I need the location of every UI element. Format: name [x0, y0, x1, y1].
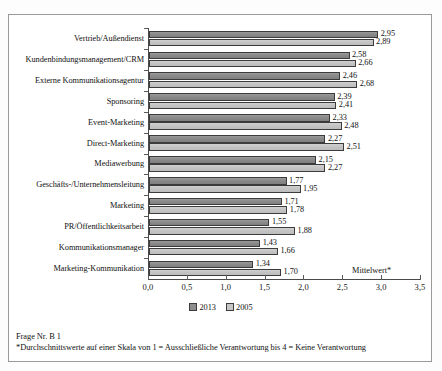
bar-2013	[149, 114, 330, 122]
chart-category-row: Kundenbindungsmanagement/CRM2,582,66	[0, 49, 442, 70]
value-axis-tick-label: 1,5	[245, 282, 285, 292]
bar-value-label: 1,43	[263, 238, 277, 247]
bar-value-label: 2,68	[360, 79, 374, 88]
chart-category-row: Mediawerbung2,152,27	[0, 154, 442, 175]
bar-value-label: 1,77	[289, 176, 303, 185]
bar-2013	[149, 219, 269, 227]
bar-2005	[149, 206, 287, 214]
bar-value-label: 2,89	[376, 37, 390, 46]
value-axis-tick-label: 3,0	[361, 282, 401, 292]
chart-footnotes: Frage Nr. B 1 *Durchschnittswerte auf ei…	[16, 331, 424, 353]
legend-label: 2013	[199, 303, 216, 312]
bar-value-label: 1,95	[303, 184, 317, 193]
category-label: Marketing	[12, 201, 144, 210]
category-label: Direct-Marketing	[12, 139, 144, 148]
value-axis-tick-label: 3,5	[400, 282, 440, 292]
category-label: Kommunikationsmanager	[12, 243, 144, 252]
category-label: Vertrieb/Außendienst	[12, 34, 144, 43]
bar-2013	[149, 240, 260, 248]
bar-2005	[149, 143, 344, 151]
value-axis-tick-label: 2,5	[322, 282, 362, 292]
chart-category-row: PR/Öffentlichkeitsarbeit1,551,88	[0, 216, 442, 237]
bar-2005	[149, 60, 356, 68]
bar-2005	[149, 185, 301, 193]
category-label: Event-Marketing	[12, 118, 144, 127]
chart-category-row: Kommunikationsmanager1,431,66	[0, 237, 442, 258]
category-label: Mediawerbung	[12, 159, 144, 168]
bar-2013	[149, 261, 253, 269]
bar-2013	[149, 93, 335, 101]
value-axis-tick-label: 2,0	[283, 282, 323, 292]
value-axis-tick-label: 0,5	[167, 282, 207, 292]
chart-category-row: Vertrieb/Außendienst2,952,89	[0, 28, 442, 49]
category-label: PR/Öffentlichkeitsarbeit	[12, 222, 144, 231]
category-label: Externe Kommunikationsagentur	[12, 76, 144, 85]
bar-2013	[149, 72, 340, 80]
chart-legend: 20132005	[0, 303, 442, 312]
bar-value-label: 1,78	[290, 205, 304, 214]
value-axis-tick	[187, 275, 188, 280]
category-label: Sponsoring	[12, 97, 144, 106]
bar-2005	[149, 269, 281, 277]
bar-value-label: 1,34	[256, 259, 270, 268]
chart-category-row: Geschäfts-/Unternehmensleitung1,771,95	[0, 174, 442, 195]
bar-2005	[149, 39, 374, 47]
legend-swatch	[189, 303, 197, 311]
bar-value-label: 2,41	[339, 100, 353, 109]
footnote-question: Frage Nr. B 1	[16, 331, 424, 342]
value-axis-line	[148, 279, 421, 280]
bar-value-label: 2,27	[328, 163, 342, 172]
bar-value-label: 1,88	[298, 226, 312, 235]
bar-2005	[149, 122, 342, 130]
chart-category-row: Direct-Marketing2,272,51	[0, 133, 442, 154]
bar-value-label: 1,66	[281, 246, 295, 255]
value-axis-tick	[420, 275, 421, 280]
footnote-scale: *Durchschnittswerte auf einer Skala von …	[16, 342, 424, 353]
bar-2005	[149, 248, 278, 256]
value-axis-tick-label: 1,0	[206, 282, 246, 292]
category-label: Marketing-Kommunikation	[12, 264, 144, 273]
bar-value-label: 2,48	[344, 121, 358, 130]
bar-2013	[149, 52, 350, 60]
chart-category-row: Sponsoring2,392,41	[0, 91, 442, 112]
legend-item-2005: 2005	[226, 303, 253, 312]
value-axis-tick	[303, 275, 304, 280]
axis-caption: Mittelwert*	[352, 266, 391, 275]
bar-value-label: 2,66	[358, 58, 372, 67]
value-axis-tick	[265, 275, 266, 280]
bar-value-label: 1,55	[272, 217, 286, 226]
bar-2013	[149, 198, 282, 206]
chart-category-row: Event-Marketing2,332,48	[0, 112, 442, 133]
bar-value-label: 1,70	[284, 267, 298, 276]
bar-2013	[149, 177, 287, 185]
value-axis-tick-label: 0,0	[128, 282, 168, 292]
chart-figure: Vertrieb/Außendienst2,952,89Kundenbindun…	[0, 0, 442, 371]
bar-2005	[149, 164, 325, 172]
bar-2013	[149, 135, 325, 143]
legend-label: 2005	[236, 303, 253, 312]
value-axis-tick	[148, 275, 149, 280]
bar-2005	[149, 102, 336, 110]
category-label: Geschäfts-/Unternehmensleitung	[12, 180, 144, 189]
bar-2005	[149, 227, 295, 235]
chart-category-row: Externe Kommunikationsagentur2,462,68	[0, 70, 442, 91]
bar-value-label: 2,27	[328, 134, 342, 143]
bar-2013	[149, 31, 378, 39]
bar-value-label: 2,46	[343, 71, 357, 80]
bar-2013	[149, 156, 316, 164]
value-axis-tick	[226, 275, 227, 280]
legend-swatch	[226, 303, 234, 311]
value-axis-tick	[381, 275, 382, 280]
category-label: Kundenbindungsmanagement/CRM	[12, 55, 144, 64]
legend-item-2013: 2013	[189, 303, 216, 312]
bar-value-label: 2,51	[347, 142, 361, 151]
value-axis-tick	[342, 275, 343, 280]
chart-category-row: Marketing1,711,78	[0, 195, 442, 216]
bar-2005	[149, 81, 357, 89]
